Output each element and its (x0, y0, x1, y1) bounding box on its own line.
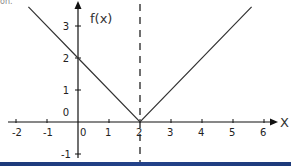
y-tick-label: 1 (63, 85, 69, 96)
x-tick-label: -2 (12, 127, 22, 138)
x-tick-label: -1 (43, 127, 53, 138)
y-tick-label: 3 (63, 21, 69, 32)
x-tick-label: 2 (136, 127, 142, 138)
x-tick-label: 0 (80, 127, 86, 138)
function-graph: -2-10123456-10123 f(x) X (0, 0, 291, 166)
y-tick-label: 2 (63, 53, 69, 64)
y-axis-label: f(x) (90, 11, 112, 26)
bottom-bar (0, 162, 291, 166)
x-axis-label: X (280, 115, 289, 130)
y-tick-label: -1 (61, 149, 71, 160)
y-tick-label: 0 (63, 107, 69, 118)
x-tick-label: 5 (229, 127, 235, 138)
x-tick-label: 4 (198, 127, 204, 138)
axis-ticks: -2-10123456-10123 (12, 21, 266, 160)
y-axis-arrow-icon (75, 1, 82, 9)
x-tick-label: 6 (260, 127, 266, 138)
x-tick-label: 3 (167, 127, 173, 138)
x-axis-arrow-icon (270, 119, 278, 126)
x-tick-label: 1 (105, 127, 111, 138)
